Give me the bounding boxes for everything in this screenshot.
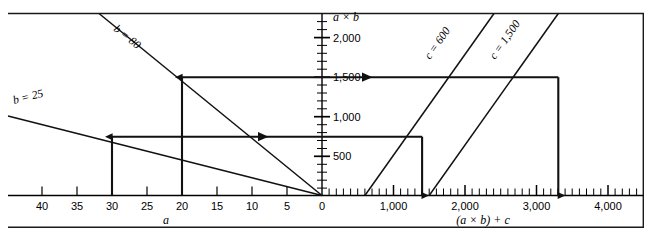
nomogram-figure: 500 1,000 1,500 2,000 a × b 40 35 30 25 [0, 0, 653, 236]
vaxis-tick-500: 500 [333, 150, 351, 162]
bottom-right-axis-label: (a × b) + c [456, 213, 510, 227]
vaxis-tick-2000: 2,000 [333, 32, 361, 44]
aaxis-tick-15: 15 [211, 200, 223, 212]
b-line-25: b = 25 [8, 87, 322, 196]
c-line-1500-label: c = 1,500 [487, 18, 523, 62]
c-line-600: c = 600 [365, 14, 494, 196]
aaxis-tick-0: 0 [319, 200, 325, 212]
aaxis-tick-5: 5 [284, 200, 290, 212]
caxis-tick-4000: 4,000 [594, 200, 622, 212]
aaxis-tick-40: 40 [36, 200, 48, 212]
caxis-tick-3000: 3,000 [523, 200, 551, 212]
aaxis-tick-20: 20 [176, 200, 188, 212]
vertical-axis: 500 1,000 1,500 2,000 a × b [314, 10, 361, 197]
c-line-600-label: c = 600 [422, 25, 453, 61]
aaxis-tick-25: 25 [141, 200, 153, 212]
aaxis-tick-30: 30 [106, 200, 118, 212]
trace-example-2 [112, 137, 422, 196]
trace1-across-arrowhead [362, 73, 373, 82]
b-line-80: b = 80 [99, 14, 322, 196]
caxis-tick-1000: 1,000 [380, 200, 408, 212]
left-axis-ticks [42, 187, 287, 196]
bottom-right-minor-ticks [329, 189, 636, 196]
bottom-right-axis: 1,000 2,000 3,000 4,000 (a × b) + c [322, 185, 643, 227]
nomogram-canvas: 500 1,000 1,500 2,000 a × b 40 35 30 25 [0, 0, 653, 236]
left-axis: 40 35 30 25 20 15 10 5 0 a [8, 187, 325, 228]
b-line-80-label: b = 80 [112, 22, 144, 51]
caxis-tick-2000: 2,000 [451, 200, 479, 212]
vertical-axis-label: a × b [333, 10, 359, 24]
vaxis-tick-1000: 1,000 [333, 111, 361, 123]
left-axis-label: a [163, 213, 169, 227]
trace2-across-arrowhead [258, 132, 269, 141]
b-line-25-label: b = 25 [12, 87, 45, 106]
aaxis-tick-35: 35 [71, 200, 83, 212]
aaxis-tick-10: 10 [246, 200, 258, 212]
c-line-1500: c = 1,500 [429, 14, 558, 196]
